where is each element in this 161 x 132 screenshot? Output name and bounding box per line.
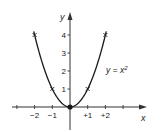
x-tick-label: −2 bbox=[30, 111, 40, 120]
x-axis-label: x bbox=[140, 113, 146, 123]
x-axis: −2−1+1+2 x bbox=[12, 105, 147, 124]
origin-point-icon bbox=[67, 104, 72, 109]
x-tick-label: +2 bbox=[101, 111, 111, 120]
y-tick-label: 2 bbox=[62, 67, 67, 76]
x-axis-arrow-icon bbox=[139, 105, 147, 110]
x-tick-label: +1 bbox=[83, 111, 93, 120]
y-tick-label: 4 bbox=[62, 31, 67, 40]
parabola-chart: −2−1+1+2 x 1234 y y = x2 bbox=[0, 0, 161, 132]
y-tick-label: 1 bbox=[62, 85, 67, 94]
y-axis-arrow-icon bbox=[68, 12, 73, 20]
y-tick-label: 3 bbox=[62, 49, 67, 58]
y-axis: 1234 y bbox=[59, 12, 73, 130]
y-axis-label: y bbox=[59, 12, 65, 22]
x-tick-label: −1 bbox=[48, 111, 58, 120]
equation-label: y = x2 bbox=[105, 65, 128, 76]
